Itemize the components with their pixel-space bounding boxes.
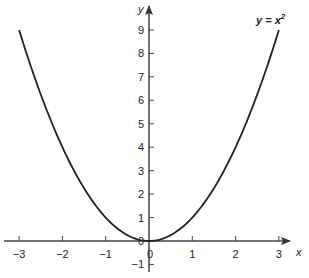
x-tick-label: 0 — [147, 248, 153, 260]
y-axis-label: y — [137, 3, 145, 15]
y-axis-ticks: −11234567890 — [131, 24, 154, 271]
y-tick-label: 2 — [138, 188, 144, 200]
x-axis-ticks: −3−2−10123 — [13, 236, 282, 260]
curve-equation-label: y = x2 — [255, 12, 286, 26]
y-tick-label: −1 — [131, 258, 144, 270]
x-tick-label: 1 — [189, 248, 195, 260]
x-tick-label: −3 — [13, 248, 26, 260]
y-tick-label: 4 — [138, 141, 144, 153]
parabola-chart: −3−2−10123 −11234567890 x y y = x2 — [0, 0, 309, 278]
x-tick-label: −2 — [56, 248, 69, 260]
y-tick-label: 5 — [138, 118, 144, 130]
x-tick-label: −1 — [99, 248, 112, 260]
x-axis-label: x — [295, 246, 302, 258]
y-tick-label: 1 — [138, 212, 144, 224]
x-tick-label: 3 — [276, 248, 282, 260]
y-tick-label: 7 — [138, 71, 144, 83]
y-tick-label: 8 — [138, 47, 144, 59]
y-tick-label: 3 — [138, 165, 144, 177]
curve-equation-exponent: 2 — [280, 12, 286, 21]
y-tick-label: 6 — [138, 94, 144, 106]
curve-equation-base: y = x — [255, 14, 282, 26]
x-tick-label: 2 — [233, 248, 239, 260]
y-tick-label: 9 — [138, 24, 144, 36]
